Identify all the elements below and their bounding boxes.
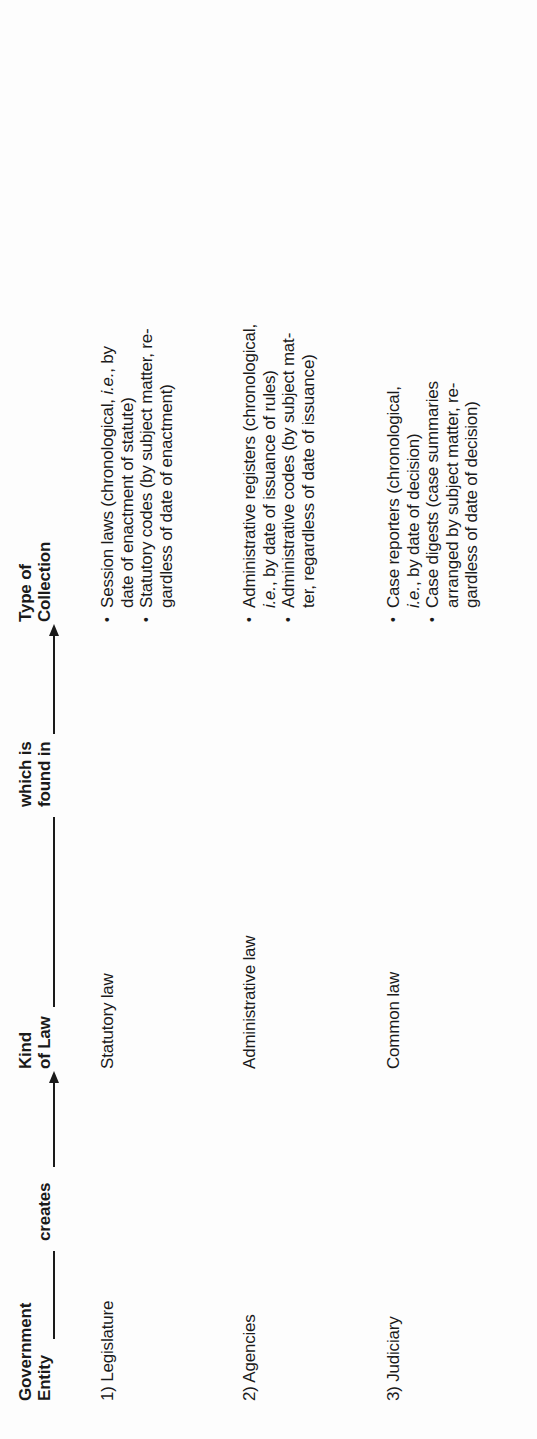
header-kind-line2: of Law bbox=[35, 1016, 54, 1069]
header-government-entity: Government Entity bbox=[16, 1303, 54, 1401]
collection-item-administrative-registers: Administrative registers (chronological,… bbox=[240, 282, 279, 622]
connector-line-entity bbox=[53, 1251, 55, 1339]
collection-line: Session laws (chronological, i.e., by bbox=[98, 292, 118, 608]
header-kind-line1: Kind bbox=[16, 1016, 35, 1069]
collection-line: Case digests (case summaries bbox=[423, 292, 443, 608]
arrow-right-icon bbox=[49, 1071, 59, 1083]
collection-item-case-digests: Case digests (case summaries arranged by… bbox=[423, 292, 482, 622]
collection-line: Administrative registers (chronological, bbox=[240, 282, 260, 608]
connector-line-creates bbox=[53, 1081, 55, 1167]
collection-line: Case reporters (chronological, bbox=[384, 292, 404, 608]
connector-line-kind bbox=[53, 817, 55, 1007]
collection-line: Statutory codes (by subject matter, re- bbox=[137, 292, 157, 608]
connector-found-in-label: which is found in bbox=[16, 742, 54, 807]
row-legislature-collections: Session laws (chronological, i.e., by da… bbox=[98, 292, 176, 622]
header-collection-line2: Collection bbox=[35, 542, 54, 622]
row-judiciary-entity: 3) Judiciary bbox=[384, 1316, 404, 1401]
row-judiciary-collections: Case reporters (chronological, i.e., by … bbox=[384, 292, 482, 622]
collection-line: Administrative codes (by subject mat- bbox=[279, 282, 299, 608]
collection-line: i.e., by date of issuance of rules) bbox=[260, 282, 280, 608]
collection-line: ter, regardless of date of issuance) bbox=[299, 282, 319, 608]
collection-line: i.e., by date of decision) bbox=[404, 292, 424, 608]
header-entity-line1: Government bbox=[16, 1303, 35, 1401]
collection-line: arranged by subject matter, re- bbox=[443, 292, 463, 608]
collection-item-case-reporters: Case reporters (chronological, i.e., by … bbox=[384, 292, 423, 622]
collection-item-statutory-codes: Statutory codes (by subject matter, re- … bbox=[137, 292, 176, 622]
connector-creates-label: creates bbox=[35, 1183, 54, 1241]
collection-line: gardless of date of enactment) bbox=[157, 292, 177, 608]
collection-line: date of enactment of statute) bbox=[118, 292, 138, 608]
row-legislature-kind: Statutory law bbox=[98, 973, 118, 1069]
row-agencies-kind: Administrative law bbox=[240, 936, 260, 1069]
header-type-of-collection: Type of Collection bbox=[16, 542, 54, 622]
row-judiciary-kind: Common law bbox=[384, 972, 404, 1069]
collection-line: gardless of date of decision) bbox=[462, 292, 482, 608]
connector-found-line2: found in bbox=[35, 742, 54, 807]
connector-found-line1: which is bbox=[16, 742, 35, 807]
collection-item-administrative-codes: Administrative codes (by subject mat- te… bbox=[279, 282, 318, 622]
row-agencies-collections: Administrative registers (chronological,… bbox=[240, 282, 318, 622]
header-kind-of-law: Kind of Law bbox=[16, 1016, 54, 1069]
collection-item-session-laws: Session laws (chronological, i.e., by da… bbox=[98, 292, 137, 622]
rotated-law-table: Government Entity creates Kind of Law wh… bbox=[0, 0, 537, 1439]
header-collection-line1: Type of bbox=[16, 542, 35, 622]
row-legislature-entity: 1) Legislature bbox=[98, 1301, 118, 1401]
arrow-right-icon bbox=[49, 624, 59, 636]
row-agencies-entity: 2) Agencies bbox=[240, 1314, 260, 1401]
connector-line-found-in bbox=[53, 634, 55, 734]
header-entity-line2: Entity bbox=[35, 1303, 54, 1401]
